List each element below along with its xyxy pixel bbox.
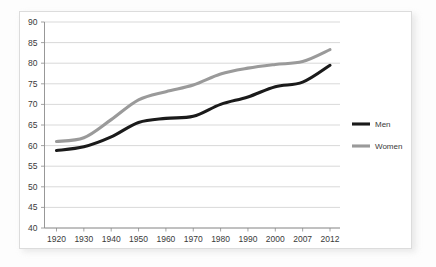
gridlines-group [45,22,341,228]
y-tick-label: 75 [28,79,38,89]
x-tick-label: 1990 [238,234,257,244]
x-tick-label: 2007 [293,234,312,244]
x-tick-label: 2000 [266,234,285,244]
legend-label-men: Men [375,120,391,129]
y-tick-label: 65 [28,120,38,130]
series-group [57,50,331,151]
y-tick-label: 50 [28,182,38,192]
x-tick-label: 1930 [74,234,93,244]
x-tick-label: 1960 [156,234,175,244]
y-tick-label: 85 [28,38,38,48]
series-line-men [57,65,331,150]
y-tick-label: 90 [28,17,38,27]
chart-screenshot-root: 4045505560657075808590 19201930194019501… [0,0,436,267]
y-tick-label: 40 [28,223,38,233]
x-tick-label: 1950 [129,234,148,244]
x-tick-label: 1920 [47,234,66,244]
line-chart: 4045505560657075808590 19201930194019501… [0,0,436,267]
x-tick-label: 1970 [184,234,203,244]
chart-plot-wrapper: 4045505560657075808590 19201930194019501… [0,0,436,267]
x-tick-label: 1980 [211,234,230,244]
legend-label-women: Women [375,142,402,151]
y-tick-label: 70 [28,99,38,109]
x-tick-labels: 1920193019401950196019701980199020002007… [47,234,340,244]
y-tick-labels: 4045505560657075808590 [28,17,38,233]
x-axis-group [45,228,341,232]
y-axis-group [41,22,45,228]
x-tick-label: 1940 [102,234,121,244]
y-tick-label: 60 [28,141,38,151]
x-tick-label: 2012 [321,234,340,244]
y-tick-label: 45 [28,202,38,212]
y-tick-label: 80 [28,58,38,68]
legend: MenWomen [352,120,402,151]
y-tick-label: 55 [28,161,38,171]
